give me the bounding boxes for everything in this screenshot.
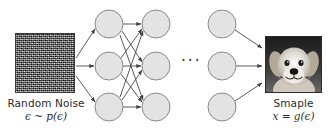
node-ln-1 — [208, 10, 236, 38]
node-l2-2 — [142, 52, 170, 80]
node-ln-3 — [208, 93, 236, 121]
node-ln-2 — [208, 52, 236, 80]
node-l1-2 — [95, 52, 123, 80]
generator-network-figure: ··· — [0, 0, 332, 132]
node-l1-3 — [95, 93, 123, 121]
node-l1-1 — [95, 10, 123, 38]
node-l2-1 — [142, 10, 170, 38]
dog-photo-graphic — [266, 37, 322, 93]
sample-formula: x = g(ϵ) — [255, 110, 332, 122]
sample-caption: Smaple x = g(ϵ) — [255, 97, 332, 123]
random-noise-formula: ϵ ~ p(ϵ) — [0, 110, 92, 122]
random-noise-patch — [15, 33, 75, 93]
node-l2-3 — [142, 93, 170, 121]
sample-dog-photo — [265, 36, 322, 93]
random-noise-label: Random Noise — [0, 97, 92, 109]
sample-label: Smaple — [255, 97, 332, 109]
layers-ellipsis: ··· — [176, 53, 206, 67]
random-noise-caption: Random Noise ϵ ~ p(ϵ) — [0, 97, 92, 123]
